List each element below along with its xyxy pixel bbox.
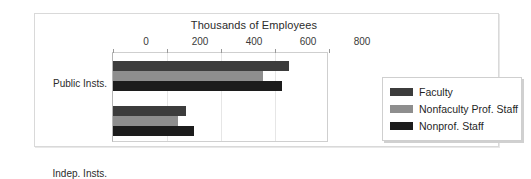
legend-label: Faculty xyxy=(419,86,453,98)
chart-title: Thousands of Employees xyxy=(146,19,362,31)
x-tick-mark xyxy=(113,49,114,53)
legend-item[interactable]: Nonfaculty Prof. Staff xyxy=(390,101,514,116)
category-label: Public Insts. xyxy=(53,78,113,89)
chart-frame: Thousands of Employees 0200400600800 Pub… xyxy=(34,13,499,147)
legend-swatch-icon xyxy=(390,122,413,130)
legend-item[interactable]: Nonprof. Staff xyxy=(390,118,514,133)
bar[interactable] xyxy=(113,116,178,126)
bar[interactable] xyxy=(113,81,282,91)
chart-legend: FacultyNonfaculty Prof. StaffNonprof. St… xyxy=(382,77,522,141)
legend-item[interactable]: Faculty xyxy=(390,84,514,99)
bar[interactable] xyxy=(113,106,186,116)
x-tick-label: 600 xyxy=(300,36,317,47)
legend-label: Nonfaculty Prof. Staff xyxy=(419,103,518,115)
x-axis: 0200400600800 xyxy=(112,36,372,52)
bar[interactable] xyxy=(113,126,194,136)
x-tick-label: 200 xyxy=(192,36,209,47)
legend-swatch-icon xyxy=(390,105,413,113)
bar-group: Public Insts. xyxy=(113,61,327,91)
x-tick-mark xyxy=(329,49,330,53)
x-tick-label: 400 xyxy=(246,36,263,47)
bar-group: Indep. Insts. xyxy=(113,106,327,136)
bar[interactable] xyxy=(113,71,263,81)
plot-area: Public Insts.Indep. Insts. xyxy=(112,52,328,142)
legend-label: Nonprof. Staff xyxy=(419,120,484,132)
x-tick-label: 0 xyxy=(143,36,149,47)
x-tick-label: 800 xyxy=(354,36,371,47)
bar[interactable] xyxy=(113,61,289,71)
legend-swatch-icon xyxy=(390,88,413,96)
